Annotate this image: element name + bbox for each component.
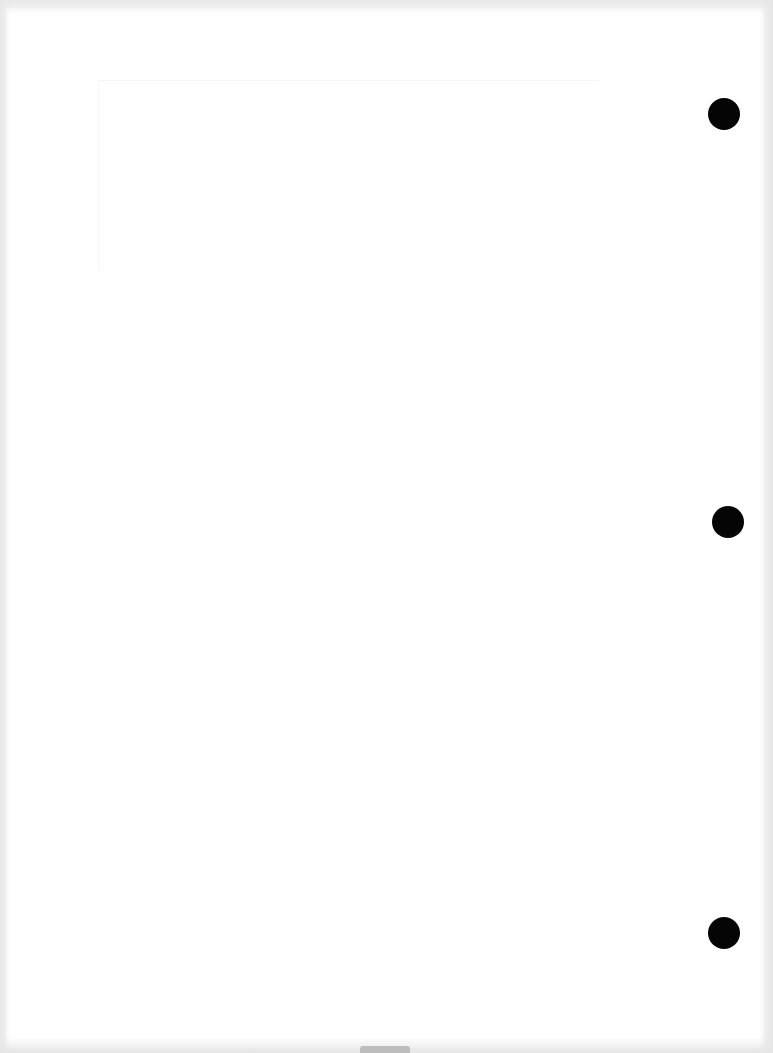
punch-hole-top xyxy=(708,98,740,130)
punch-hole-bottom xyxy=(708,917,740,949)
bleed-through-ghost xyxy=(98,80,599,271)
scanner-mark xyxy=(360,1046,410,1053)
scan-edge-right xyxy=(759,0,773,1053)
punch-hole-middle xyxy=(712,506,744,538)
scan-edge-top xyxy=(0,0,773,14)
scan-edge-left xyxy=(0,0,10,1053)
blank-page xyxy=(6,8,764,1048)
